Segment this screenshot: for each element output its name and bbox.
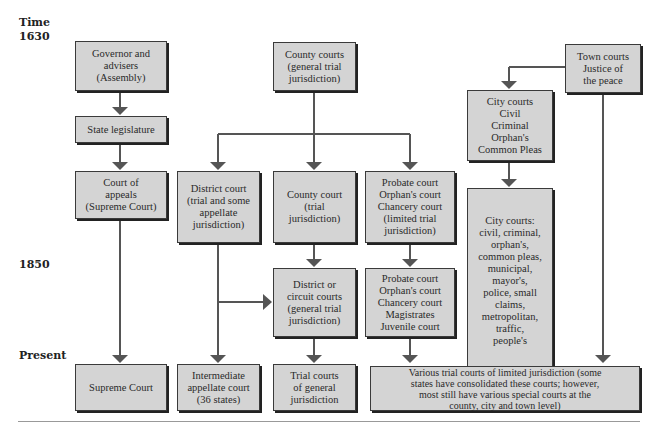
box-city-courts-1630: City courts Civil Criminal Orphan's Comm… <box>467 90 553 161</box>
box-county-court-trial: County court (trial jurisdiction) <box>273 171 356 243</box>
box-city-courts-list: City courts: civil, criminal, orphan's, … <box>467 188 553 374</box>
box-trial-general: Trial courts of general jurisdiction <box>273 364 356 411</box>
box-probate-1850: Probate court Orphan's court Chancery co… <box>365 268 455 337</box>
bottom-divider <box>18 421 640 422</box>
box-district-court: District court (trial and some appellate… <box>177 171 260 243</box>
box-governor: Governor and advisers (Assembly) <box>75 41 167 91</box>
box-court-of-appeals: Court of appeals (Supreme Court) <box>75 171 167 219</box>
box-probate-limited: Probate court Orphan's court Chancery co… <box>365 171 455 243</box>
box-town-courts: Town courts Justice of the peace <box>565 44 641 93</box>
box-intermediate-appellate: Intermediate appellate court (36 states) <box>177 364 260 411</box>
box-district-or-circuit: District or circuit courts (general tria… <box>273 268 356 337</box>
box-supreme-court: Supreme Court <box>75 364 167 411</box>
box-various-limited: Various trial courts of limited jurisdic… <box>370 366 640 411</box>
box-county-courts-1630: County courts (general trial jurisdictio… <box>273 42 356 91</box>
box-state-legislature: State legislature <box>75 116 167 143</box>
